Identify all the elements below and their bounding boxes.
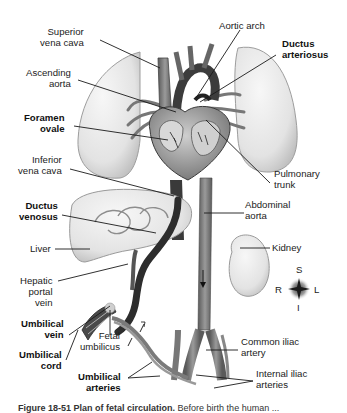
label-kidney: Kidney (272, 242, 301, 253)
compass-inferior: I (297, 302, 300, 313)
fetal-circulation-diagram: Superior vena cava Ascending aorta Foram… (0, 0, 347, 413)
umbilical-arteries-shape (112, 318, 196, 384)
label-hepatic-portal-vein: Hepatic portal vein (20, 275, 53, 308)
figure-caption: Figure 18-51 Plan of fetal circulation. … (18, 403, 279, 413)
label-internal-iliac-arteries: Internal iliac arteries (256, 368, 307, 390)
label-fetal-umbilicus: Fetal umbilicus (80, 330, 120, 352)
orientation-compass-icon (288, 278, 310, 300)
caption-text: Before birth the human ... (178, 403, 280, 413)
label-aortic-arch: Aortic arch (219, 20, 265, 31)
label-foramen-ovale: Foramen ovale (24, 112, 65, 134)
label-umbilical-cord: Umbilical cord (19, 349, 62, 371)
compass-left: L (314, 284, 319, 295)
left-lung (235, 47, 297, 172)
kidney-shape (229, 235, 269, 296)
label-ascending-aorta: Ascending aorta (26, 67, 71, 89)
label-common-iliac-artery: Common iliac artery (241, 336, 299, 358)
label-ductus-arteriosus: Ductus arteriosus (282, 38, 328, 60)
compass-right: R (275, 284, 282, 295)
compass-superior: S (296, 264, 302, 275)
heart-shape (149, 106, 230, 180)
label-liver: Liver (30, 243, 51, 254)
label-ductus-venosus: Ductus venosus (19, 200, 58, 222)
abdominal-aorta-shape (198, 178, 212, 330)
iliac-arteries-shape (174, 330, 228, 380)
label-superior-vena-cava: Superior vena cava (40, 26, 84, 48)
caption-figure-number: Figure 18-51 (18, 403, 71, 413)
right-lung (78, 52, 140, 178)
label-umbilical-vein: Umbilical vein (21, 318, 64, 340)
label-abdominal-aorta: Abdominal aorta (245, 199, 290, 221)
label-inferior-vena-cava: Inferior vena cava (18, 154, 62, 176)
label-pulmonary-trunk: Pulmonary trunk (274, 168, 320, 190)
label-umbilical-arteries: Umbilical arteries (78, 371, 121, 393)
caption-figure-title: Plan of fetal circulation. (74, 403, 176, 413)
